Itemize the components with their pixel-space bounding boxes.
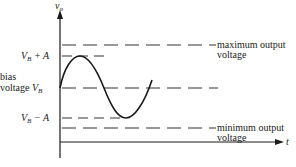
y-axis-label: vo — [55, 1, 63, 14]
bias-label-line1: bias — [0, 72, 16, 82]
vb-minus-a-label: VB − A — [21, 113, 49, 126]
x-axis-label: t — [286, 137, 289, 147]
vb-plus-a-label: VB + A — [21, 51, 49, 64]
sine-bias-diagram — [0, 0, 296, 167]
min-output-label-line2: voltage — [217, 133, 246, 143]
x-axis-arrow-icon — [275, 139, 284, 145]
sine-wave — [60, 56, 152, 118]
max-output-label-line2: voltage — [217, 50, 246, 60]
bias-label-line2: voltage VB — [0, 83, 42, 96]
